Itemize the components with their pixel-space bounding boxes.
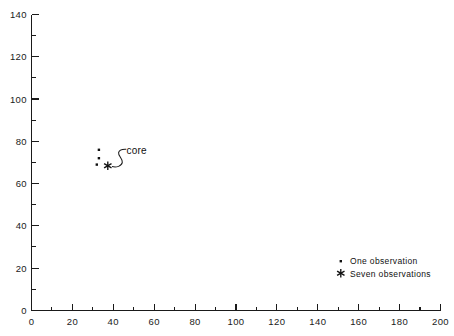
data-series-one-observation [96, 149, 101, 166]
y-axis-minor-ticks [32, 36, 36, 290]
x-tick-label: 200 [432, 316, 449, 327]
legend-asterisk-icon [337, 269, 344, 277]
x-tick-label: 180 [391, 316, 408, 327]
core-label: core [127, 145, 147, 156]
chart-page: 140 120 100 80 60 40 20 0 [0, 0, 454, 336]
data-point-dot [98, 157, 100, 159]
legend-label-seven-observations: Seven observations [350, 269, 431, 279]
data-point-asterisk [104, 162, 111, 170]
x-tick-label: 160 [350, 316, 367, 327]
y-tick-label: 60 [16, 178, 27, 189]
core-leader-line [112, 149, 126, 167]
x-tick-label: 140 [309, 316, 326, 327]
scatter-plot: 140 120 100 80 60 40 20 0 [0, 0, 454, 336]
y-tick-label: 140 [10, 9, 27, 20]
y-tick-label: 80 [16, 136, 27, 147]
legend-entry-one-observation: One observation [340, 256, 418, 266]
legend: One observation Seven observations [337, 256, 431, 278]
y-tick-label: 120 [10, 51, 27, 62]
x-tick-label: 100 [227, 316, 244, 327]
x-tick-label: 0 [29, 316, 35, 327]
x-tick-label: 40 [108, 316, 119, 327]
x-tick-label: 120 [268, 316, 285, 327]
x-tick-label: 80 [189, 316, 200, 327]
core-annotation: core [112, 145, 147, 167]
x-tick-label: 20 [67, 316, 78, 327]
y-tick-label: 40 [16, 220, 27, 231]
data-point-dot [96, 163, 98, 165]
legend-entry-seven-observations: Seven observations [337, 269, 431, 279]
x-tick-label: 60 [149, 316, 160, 327]
x-axis-tick-labels: 0 20 40 60 80 100 120 140 160 180 200 [29, 316, 449, 327]
y-tick-label: 0 [21, 305, 27, 316]
legend-dot-icon [340, 260, 342, 262]
y-axis-tick-labels: 140 120 100 80 60 40 20 0 [10, 9, 27, 316]
data-series-seven-observations [104, 162, 111, 170]
legend-label-one-observation: One observation [350, 256, 418, 266]
data-point-dot [98, 149, 100, 151]
y-tick-label: 100 [10, 94, 27, 105]
y-tick-label: 20 [16, 263, 27, 274]
